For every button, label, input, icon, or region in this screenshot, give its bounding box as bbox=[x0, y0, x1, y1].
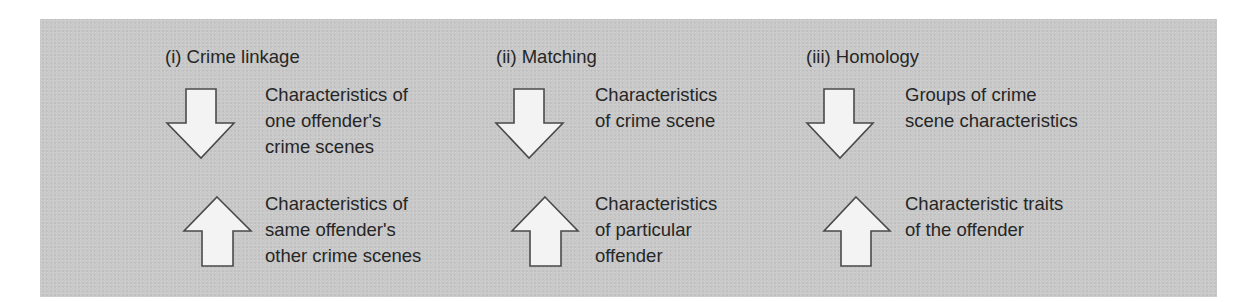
text-line: Characteristics bbox=[595, 191, 717, 217]
text-line: of particular bbox=[595, 217, 717, 243]
text-line: offender bbox=[595, 243, 717, 269]
up-arrow-icon bbox=[511, 196, 581, 268]
down-arrow-icon bbox=[495, 88, 565, 160]
text-line: Characteristics of bbox=[265, 191, 421, 217]
homology-title: (iii) Homology bbox=[806, 46, 919, 68]
down-arrow-icon bbox=[166, 88, 236, 160]
text-line: of crime scene bbox=[595, 108, 717, 134]
crime-linkage-down-text: Characteristics of one offender's crime … bbox=[265, 82, 408, 160]
crime-linkage-title: (i) Crime linkage bbox=[165, 46, 300, 68]
text-line: same offender's bbox=[265, 217, 421, 243]
crime-linkage-up-text: Characteristics of same offender's other… bbox=[265, 191, 421, 269]
text-line: Characteristics bbox=[595, 82, 717, 108]
text-line: of the offender bbox=[905, 217, 1063, 243]
text-line: crime scenes bbox=[265, 134, 408, 160]
homology-down-text: Groups of crime scene characteristics bbox=[905, 82, 1078, 134]
up-arrow-icon bbox=[823, 196, 893, 268]
text-line: Characteristic traits bbox=[905, 191, 1063, 217]
text-line: scene characteristics bbox=[905, 108, 1078, 134]
down-arrow-icon bbox=[806, 88, 876, 160]
text-line: one offender's bbox=[265, 108, 408, 134]
up-arrow-icon bbox=[183, 196, 253, 268]
text-line: Characteristics of bbox=[265, 82, 408, 108]
homology-up-text: Characteristic traits of the offender bbox=[905, 191, 1063, 243]
matching-title: (ii) Matching bbox=[496, 46, 597, 68]
matching-down-text: Characteristics of crime scene bbox=[595, 82, 717, 134]
text-line: Groups of crime bbox=[905, 82, 1078, 108]
matching-up-text: Characteristics of particular offender bbox=[595, 191, 717, 269]
text-line: other crime scenes bbox=[265, 243, 421, 269]
